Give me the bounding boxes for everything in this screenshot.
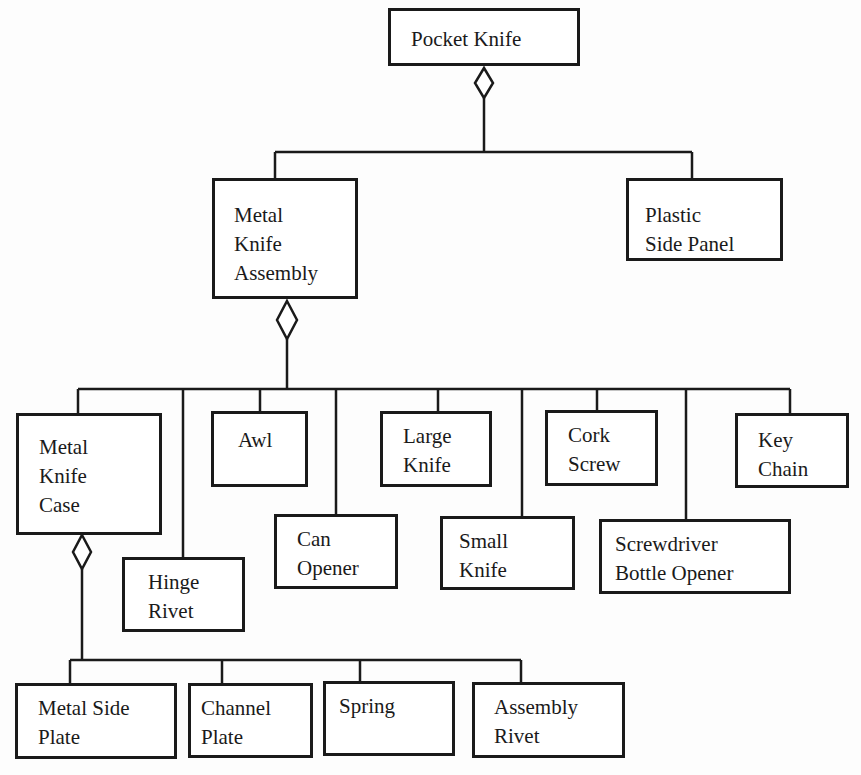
node-channel-plate: Channel Plate — [188, 683, 313, 758]
node-label: Rivet — [494, 722, 622, 751]
node-label: Opener — [297, 554, 395, 583]
node-cork-screw: Cork Screw — [545, 410, 658, 486]
connector-lines — [0, 0, 861, 775]
node-spring: Spring — [323, 681, 455, 756]
node-label: Awl — [238, 426, 305, 455]
node-label: Metal Side — [38, 694, 174, 723]
node-label: Channel — [201, 694, 310, 723]
node-label: Pocket Knife — [411, 25, 577, 54]
node-label: Case — [39, 491, 159, 520]
node-label: Side Panel — [645, 230, 780, 259]
node-metal-knife-case: Metal Knife Case — [16, 413, 162, 535]
node-hinge-rivet: Hinge Rivet — [122, 557, 245, 632]
node-label: Screwdriver — [615, 530, 788, 559]
node-label: Metal — [234, 201, 355, 230]
node-label: Can — [297, 525, 395, 554]
aggregation-diamond-icon — [475, 68, 493, 98]
node-label: Assembly — [234, 259, 355, 288]
node-label: Plastic — [645, 201, 780, 230]
node-large-knife: Large Knife — [380, 411, 492, 487]
node-label: Plate — [201, 723, 310, 752]
node-can-opener: Can Opener — [274, 514, 398, 589]
node-small-knife: Small Knife — [440, 516, 575, 590]
node-awl: Awl — [211, 411, 308, 487]
node-pocket-knife: Pocket Knife — [388, 8, 580, 66]
aggregation-diamond-icon — [277, 301, 297, 339]
node-label: Knife — [459, 556, 572, 585]
node-label: Assembly — [494, 693, 622, 722]
node-label: Knife — [234, 230, 355, 259]
node-label: Hinge — [148, 568, 242, 597]
node-label: Rivet — [148, 597, 242, 626]
node-metal-side-plate: Metal Side Plate — [15, 683, 177, 759]
aggregation-diagram: Pocket Knife Metal Knife Assembly Plasti… — [0, 0, 861, 775]
node-label: Small — [459, 527, 572, 556]
node-plastic-side-panel: Plastic Side Panel — [626, 178, 783, 261]
node-assembly-rivet: Assembly Rivet — [472, 682, 625, 758]
node-label: Cork — [568, 421, 655, 450]
node-label: Spring — [339, 692, 452, 721]
aggregation-diamond-icon — [73, 535, 91, 569]
node-label: Screw — [568, 450, 655, 479]
node-screwdriver-bottle-opener: Screwdriver Bottle Opener — [599, 519, 791, 594]
node-label: Large — [403, 422, 489, 451]
node-metal-knife-assembly: Metal Knife Assembly — [212, 178, 358, 299]
node-label: Metal — [39, 433, 159, 462]
node-key-chain: Key Chain — [735, 413, 849, 488]
node-label: Key — [758, 426, 846, 455]
node-label: Bottle Opener — [615, 559, 788, 588]
node-label: Plate — [38, 723, 174, 752]
node-label: Knife — [39, 462, 159, 491]
node-label: Knife — [403, 451, 489, 480]
node-label: Chain — [758, 455, 846, 484]
